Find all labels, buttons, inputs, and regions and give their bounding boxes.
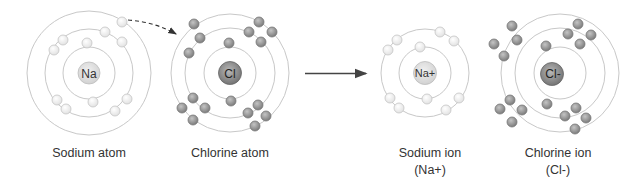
caption-formula: (Cl-)	[513, 163, 603, 178]
chlorine-atom: Cl	[171, 14, 289, 132]
chlorine-ion-nucleus: Cl-	[541, 63, 564, 86]
caption-text: Chlorine ion	[513, 146, 603, 161]
ionic-bond-diagram: Na	[0, 0, 636, 189]
caption-chlorine-atom: Chlorine atom	[175, 146, 285, 161]
chlorine-ion: Cl-	[489, 14, 619, 134]
caption-sodium-ion: Sodium ion (Na+)	[390, 146, 470, 178]
caption-chlorine-ion: Chlorine ion (Cl-)	[513, 146, 603, 178]
sodium-ion-nucleus: Na+	[414, 62, 437, 85]
sodium-ion: Na+	[381, 27, 469, 117]
nucleus-label: Na+	[415, 67, 436, 79]
nucleus-label: Cl	[224, 67, 235, 81]
sodium-atom: Na	[27, 11, 151, 135]
caption-text: Sodium ion	[390, 146, 470, 161]
chlorine-nucleus: Cl	[219, 62, 242, 85]
sodium-nucleus: Na	[78, 62, 100, 84]
caption-text: Sodium atom	[39, 146, 139, 161]
nucleus-label: Na	[81, 67, 97, 81]
caption-sodium-atom: Sodium atom	[39, 146, 139, 161]
caption-text: Chlorine atom	[175, 146, 285, 161]
nucleus-label: Cl-	[545, 67, 560, 81]
caption-formula: (Na+)	[390, 163, 470, 178]
